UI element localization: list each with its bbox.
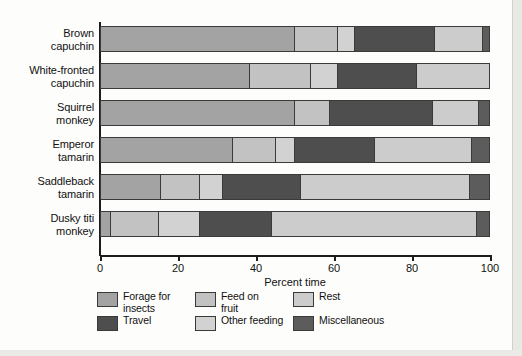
legend-label-line: Rest <box>319 291 340 303</box>
y-axis-label-line: monkey <box>0 225 94 238</box>
bar-segment <box>295 27 338 51</box>
y-axis-label-line: Brown <box>0 27 94 40</box>
legend-label: Rest <box>319 291 340 303</box>
chart-legend: Forage forinsectsFeed onfruitRestTravelO… <box>97 291 437 337</box>
page-edge-bottom <box>0 350 522 356</box>
bar-row <box>100 100 490 126</box>
y-axis-label-line: Squirrel <box>0 101 94 114</box>
bar-segment <box>101 175 161 199</box>
bar-segment <box>159 212 200 236</box>
bar-segment <box>250 64 310 88</box>
x-axis-tick-label: 20 <box>172 262 184 274</box>
bar-row <box>100 211 490 237</box>
legend-swatch <box>293 316 314 331</box>
bar-segment <box>101 138 233 162</box>
bar-segment <box>200 175 223 199</box>
x-axis-tick <box>256 255 258 261</box>
legend-label-line: Other feeding <box>221 315 283 327</box>
y-axis-label: Saddlebacktamarin <box>0 175 94 200</box>
y-axis-label-line: Saddleback <box>0 175 94 188</box>
bar-segment <box>223 175 301 199</box>
bar-segment <box>470 175 489 199</box>
legend-item[interactable]: Forage forinsects <box>97 291 193 315</box>
bar-segment <box>161 175 200 199</box>
bar-segment <box>272 212 478 236</box>
bar-segment <box>311 64 338 88</box>
legend-swatch <box>97 316 118 331</box>
legend-item[interactable]: Rest <box>293 291 409 315</box>
legend-label: Feed onfruit <box>221 291 259 314</box>
y-axis-label: Dusky titimonkey <box>0 212 94 237</box>
x-axis-tick-label: 40 <box>250 262 262 274</box>
bar-segment <box>101 64 250 88</box>
x-axis-tick <box>178 255 180 261</box>
bar-row <box>100 63 490 89</box>
y-axis-label-line: monkey <box>0 114 94 127</box>
bar-segment <box>101 27 295 51</box>
legend-label-line: Miscellaneous <box>319 315 384 327</box>
bar-segment <box>338 64 418 88</box>
legend-item[interactable]: Travel <box>97 315 193 337</box>
bar-segment <box>433 101 480 125</box>
legend-label-line: Travel <box>123 315 151 327</box>
bar-segment <box>375 138 472 162</box>
legend-label: Forage forinsects <box>123 291 170 314</box>
bar-segment <box>295 138 375 162</box>
y-axis-label: Browncapuchin <box>0 27 94 52</box>
legend-label: Other feeding <box>221 315 283 327</box>
y-axis-label-line: tamarin <box>0 151 94 164</box>
y-axis-label-line: capuchin <box>0 77 94 90</box>
y-axis-label: Squirrelmonkey <box>0 101 94 126</box>
x-axis-line <box>100 255 491 257</box>
x-axis-tick <box>334 255 336 261</box>
legend-item[interactable]: Miscellaneous <box>293 315 409 337</box>
legend-swatch <box>195 292 216 307</box>
bar-row <box>100 137 490 163</box>
y-axis-label-line: tamarin <box>0 188 94 201</box>
x-axis-tick-label: 80 <box>406 262 418 274</box>
bar-segment <box>355 27 435 51</box>
y-axis-label-line: capuchin <box>0 40 94 53</box>
bar-segment <box>111 212 160 236</box>
bar-segment <box>233 138 276 162</box>
bar-segment <box>276 138 295 162</box>
bar-segment <box>417 64 489 88</box>
bar-segment <box>435 27 484 51</box>
bar-segment <box>301 175 470 199</box>
legend-swatch <box>293 292 314 307</box>
bar-segment <box>472 138 489 162</box>
x-axis-tick-label: 100 <box>481 262 499 274</box>
x-axis-tick-label: 0 <box>97 262 103 274</box>
bar-segment <box>477 212 489 236</box>
x-axis-tick <box>100 255 102 261</box>
legend-label-line: insects <box>123 303 170 315</box>
legend-item[interactable]: Other feeding <box>195 315 291 337</box>
bar-row <box>100 174 490 200</box>
y-axis-label-line: Emperor <box>0 138 94 151</box>
bar-segment <box>101 212 111 236</box>
x-axis-tick <box>412 255 414 261</box>
plot-area <box>100 22 490 250</box>
bar-row <box>100 26 490 52</box>
bar-segment <box>483 27 489 51</box>
legend-item[interactable]: Feed onfruit <box>195 291 291 315</box>
legend-label: Travel <box>123 315 151 327</box>
bar-segment <box>479 101 489 125</box>
page-edge-right <box>512 0 522 356</box>
legend-label: Miscellaneous <box>319 315 384 327</box>
bar-segment <box>295 101 330 125</box>
y-axis-label-line: Dusky titi <box>0 212 94 225</box>
legend-label-line: fruit <box>221 303 259 315</box>
bar-segment <box>200 212 272 236</box>
legend-swatch <box>97 292 118 307</box>
y-axis-label: Emperortamarin <box>0 138 94 163</box>
y-axis-label-line: White-fronted <box>0 64 94 77</box>
bar-segment <box>101 101 295 125</box>
legend-swatch <box>195 316 216 331</box>
bar-segment <box>330 101 433 125</box>
bar-segment <box>338 27 355 51</box>
x-axis-tick <box>490 255 492 261</box>
x-axis-tick-label: 60 <box>328 262 340 274</box>
y-axis-label: White-frontedcapuchin <box>0 64 94 89</box>
legend-label-line: Forage for <box>123 291 170 303</box>
